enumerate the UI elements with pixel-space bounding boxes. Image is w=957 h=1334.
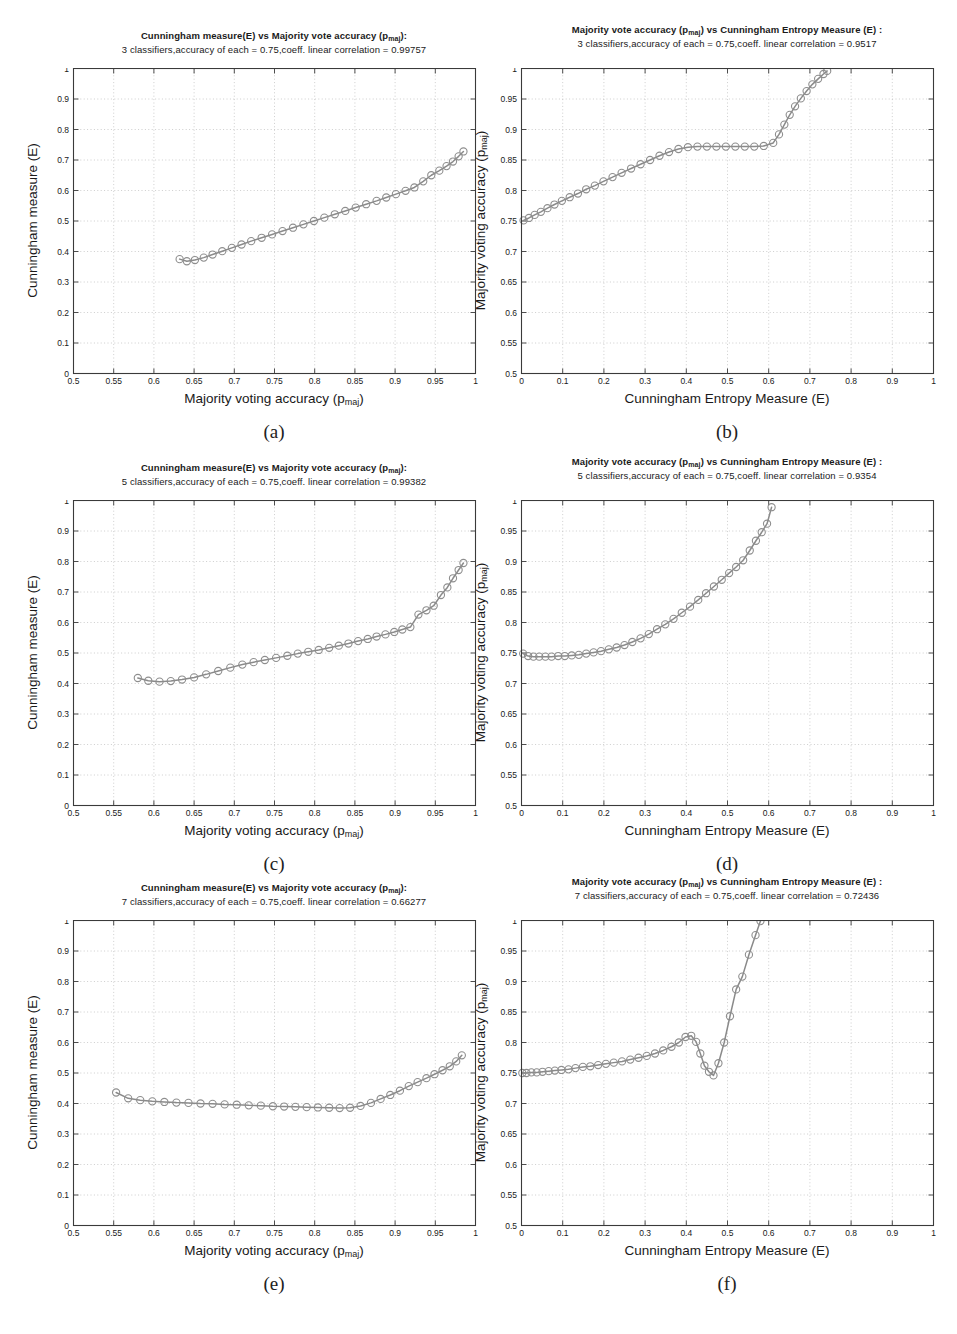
svg-text:0.95: 0.95	[500, 946, 517, 956]
subscript-maj: maj	[345, 397, 360, 407]
xaxis-label-c: Majority voting accuracy (pmaj)	[73, 823, 475, 839]
plot-axes-e: 0.50.550.60.650.70.750.80.850.90.95100.1…	[43, 920, 445, 1225]
svg-text:0.9: 0.9	[389, 1228, 401, 1238]
xaxis-label-b: Cunningham Entropy Measure (E)	[521, 391, 933, 406]
svg-text:0.65: 0.65	[186, 1228, 203, 1238]
subscript-maj: maj	[479, 567, 489, 582]
yaxis-label-d: Majority voting accuracy (pmaj)	[473, 500, 489, 805]
svg-text:1: 1	[64, 68, 69, 74]
svg-text:0.85: 0.85	[500, 587, 517, 597]
plot-title-line2-d: 5 classifiers,accuracy of each = 0.75,co…	[521, 470, 933, 482]
svg-text:0.95: 0.95	[500, 94, 517, 104]
svg-text:1: 1	[931, 808, 936, 818]
svg-text:0: 0	[519, 808, 524, 818]
svg-text:0.3: 0.3	[57, 1129, 69, 1139]
svg-text:0: 0	[64, 1221, 69, 1231]
svg-text:0.2: 0.2	[598, 1228, 610, 1238]
svg-text:0.55: 0.55	[500, 338, 517, 348]
svg-text:0.7: 0.7	[57, 587, 69, 597]
figure-canvas: Cunningham measure(E) vs Majority vote a…	[0, 0, 957, 1334]
svg-text:0.5: 0.5	[722, 376, 734, 386]
svg-text:0.65: 0.65	[500, 709, 517, 719]
svg-text:0.6: 0.6	[505, 1160, 517, 1170]
svg-text:0.8: 0.8	[845, 1228, 857, 1238]
svg-text:1: 1	[931, 376, 936, 386]
svg-text:0.2: 0.2	[57, 308, 69, 318]
xaxis-label-d: Cunningham Entropy Measure (E)	[521, 823, 933, 838]
subplot-caption-a: (a)	[214, 421, 334, 443]
svg-text:0.8: 0.8	[845, 808, 857, 818]
svg-text:0.5: 0.5	[505, 369, 517, 379]
svg-text:1: 1	[512, 920, 517, 926]
svg-text:0: 0	[64, 801, 69, 811]
grid-lines	[74, 501, 476, 806]
svg-text:0.6: 0.6	[57, 618, 69, 628]
svg-text:0.9: 0.9	[886, 1228, 898, 1238]
svg-text:1: 1	[473, 808, 478, 818]
xaxis-label-e: Majority voting accuracy (pmaj)	[73, 1243, 475, 1259]
svg-text:0.8: 0.8	[309, 376, 321, 386]
svg-text:0.6: 0.6	[763, 1228, 775, 1238]
svg-text:1: 1	[512, 500, 517, 506]
svg-text:0.6: 0.6	[148, 376, 160, 386]
plot-title-line2-f: 7 classifiers,accuracy of each = 0.75,co…	[521, 890, 933, 902]
subscript-maj: maj	[688, 29, 700, 36]
svg-text:0.6: 0.6	[57, 1038, 69, 1048]
svg-text:0.75: 0.75	[266, 1228, 283, 1238]
plot-title-line1-a: Cunningham measure(E) vs Majority vote a…	[73, 30, 475, 44]
svg-text:0.7: 0.7	[57, 1007, 69, 1017]
svg-text:0.3: 0.3	[639, 1228, 651, 1238]
svg-text:0.7: 0.7	[804, 808, 816, 818]
svg-text:0.55: 0.55	[105, 1228, 122, 1238]
svg-text:0.9: 0.9	[886, 808, 898, 818]
svg-text:0.95: 0.95	[427, 1228, 444, 1238]
svg-text:0.4: 0.4	[57, 679, 69, 689]
svg-text:0.7: 0.7	[804, 376, 816, 386]
svg-text:0.3: 0.3	[57, 709, 69, 719]
svg-text:0.85: 0.85	[500, 155, 517, 165]
svg-text:0.75: 0.75	[500, 216, 517, 226]
svg-text:0.95: 0.95	[500, 526, 517, 536]
svg-text:0.4: 0.4	[680, 376, 692, 386]
svg-text:1: 1	[64, 500, 69, 506]
svg-text:0.8: 0.8	[309, 1228, 321, 1238]
svg-text:0.9: 0.9	[505, 977, 517, 987]
data-line-f	[522, 921, 760, 1075]
grid-lines	[522, 921, 934, 1226]
plot-title-line1-d: Majority vote accuracy (pmaj) vs Cunning…	[521, 456, 933, 470]
svg-text:0.1: 0.1	[557, 1228, 569, 1238]
yaxis-label-f: Majority voting accuracy (pmaj)	[473, 920, 489, 1225]
xaxis-label-a: Majority voting accuracy (pmaj)	[73, 391, 475, 407]
svg-text:0.6: 0.6	[148, 1228, 160, 1238]
svg-text:0.3: 0.3	[639, 376, 651, 386]
svg-text:0: 0	[519, 376, 524, 386]
svg-text:0.5: 0.5	[505, 1221, 517, 1231]
plot-svg-b: 00.10.20.30.40.50.60.70.80.910.50.550.60…	[491, 68, 937, 389]
plot-title-line2-b: 3 classifiers,accuracy of each = 0.75,co…	[521, 38, 933, 50]
svg-text:0.8: 0.8	[57, 125, 69, 135]
svg-text:1: 1	[473, 1228, 478, 1238]
svg-text:0.8: 0.8	[845, 376, 857, 386]
plot-axes-f: 00.10.20.30.40.50.60.70.80.910.50.550.60…	[491, 920, 903, 1225]
svg-text:0.5: 0.5	[722, 808, 734, 818]
plot-svg-e: 0.50.550.60.650.70.750.80.850.90.95100.1…	[43, 920, 479, 1241]
svg-text:0.85: 0.85	[347, 808, 364, 818]
svg-text:0.6: 0.6	[763, 808, 775, 818]
svg-text:0.65: 0.65	[500, 277, 517, 287]
yaxis-label-c: Cunningham measure (E)	[25, 500, 40, 805]
svg-text:0.7: 0.7	[505, 1099, 517, 1109]
plot-axes-b: 00.10.20.30.40.50.60.70.80.910.50.550.60…	[491, 68, 903, 373]
yaxis-label-b: Majority voting accuracy (pmaj)	[473, 68, 489, 373]
data-line-b	[524, 71, 828, 220]
svg-text:0.7: 0.7	[228, 808, 240, 818]
grid-lines	[522, 69, 934, 374]
subplot-caption-f: (f)	[667, 1273, 787, 1295]
svg-text:0.8: 0.8	[57, 557, 69, 567]
plot-title-d: Majority vote accuracy (pmaj) vs Cunning…	[521, 456, 933, 482]
svg-text:0.7: 0.7	[804, 1228, 816, 1238]
svg-text:0.1: 0.1	[57, 1190, 69, 1200]
svg-text:0.9: 0.9	[57, 94, 69, 104]
svg-text:0.4: 0.4	[57, 1099, 69, 1109]
tick-labels-f: 00.10.20.30.40.50.60.70.80.910.50.550.60…	[500, 920, 936, 1238]
svg-text:0.9: 0.9	[505, 557, 517, 567]
